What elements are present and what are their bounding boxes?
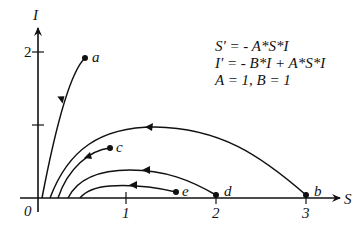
equation-i-prime: I' = - B*I + A*S*I	[214, 55, 326, 71]
arrow-icon	[84, 152, 92, 159]
trajectory-a: a	[42, 49, 100, 198]
start-point-b	[303, 192, 309, 198]
trajectory-label-c: c	[116, 139, 123, 155]
start-point-d	[213, 192, 219, 198]
trajectory-label-d: d	[224, 183, 232, 199]
s-tick-label-2: 2	[212, 205, 220, 221]
equation-s-prime: S' = - A*S*I	[215, 38, 289, 54]
s-axis-label: S	[344, 191, 352, 207]
trajectory-d: d	[68, 166, 232, 199]
equation-params: A = 1, B = 1	[214, 72, 291, 88]
trajectory-c: c	[58, 139, 123, 198]
trajectory-e: e	[80, 181, 189, 199]
origin-label: 0	[24, 203, 32, 219]
i-axis-label: I	[32, 7, 39, 23]
phase-portrait: S I 0 1 2 3 2 S' = - A*S*I I' = - B*I + …	[0, 0, 359, 234]
start-point-c	[107, 145, 113, 151]
trajectory-label-a: a	[92, 49, 100, 65]
trajectory-label-e: e	[182, 183, 189, 199]
s-tick-label-1: 1	[122, 205, 130, 221]
arrow-icon	[142, 166, 150, 174]
start-point-e	[173, 189, 179, 195]
s-tick-label-3: 3	[301, 205, 310, 221]
arrow-icon	[145, 123, 153, 131]
trajectory-label-b: b	[314, 183, 322, 199]
i-tick-label-2: 2	[24, 44, 32, 60]
start-point-a	[82, 55, 88, 61]
arrow-icon	[129, 181, 137, 189]
